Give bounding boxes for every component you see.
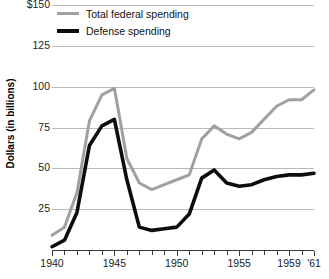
y-axis-tick-labels: $150125100755025 [0,0,50,279]
chart-legend: Total federal spending Defense spending [57,5,237,39]
y-axis-tick-label: 25 [4,203,50,214]
x-axis-tick [202,251,203,255]
x-axis-line [52,250,314,251]
x-axis-tick-label: 1959 [277,257,300,269]
legend-swatch-total-icon [57,12,79,15]
x-axis-tick-label: 1945 [103,257,126,269]
x-axis-tick [227,251,228,255]
x-axis-tick [314,251,315,256]
x-axis-tick-label: 1940 [40,257,63,269]
legend-label-total: Total federal spending [86,8,189,20]
series-line-defense-spending [52,119,314,246]
x-axis-tick [177,251,178,256]
x-axis-tick [114,251,115,256]
x-axis-tick [252,251,253,255]
series-line-total-federal-spending [52,88,314,235]
x-axis-tick [277,251,278,255]
x-axis-tick [302,251,303,255]
legend-swatch-defense-icon [57,29,79,33]
x-axis-tick [52,251,53,256]
x-axis-tick [264,251,265,255]
x-axis-tick-label: '61 [307,257,321,269]
y-axis-tick-label: 50 [4,162,50,173]
chart-container: Dollars (in billions) $150125100755025 1… [0,0,329,279]
x-axis-tick-label: 1950 [165,257,188,269]
x-axis-tick [214,251,215,255]
legend-label-defense: Defense spending [86,25,171,37]
y-axis-tick-label: 75 [4,122,50,133]
x-axis-tick [77,251,78,255]
y-axis-tick-label: 125 [4,40,50,51]
x-axis-tick [289,251,290,256]
x-axis-tick [152,251,153,255]
x-axis-tick [127,251,128,255]
y-axis-tick-label: $150 [4,0,50,10]
x-axis-tick [64,251,65,255]
y-axis-tick-label: 100 [4,81,50,92]
legend-item-total: Total federal spending [57,5,237,22]
x-axis-tick [164,251,165,255]
legend-item-defense: Defense spending [57,22,237,39]
x-axis-tick [239,251,240,256]
x-axis-tick [189,251,190,255]
x-axis-tick-label: 1955 [227,257,250,269]
x-axis-tick [102,251,103,255]
x-axis-tick [139,251,140,255]
x-axis-tick [89,251,90,255]
